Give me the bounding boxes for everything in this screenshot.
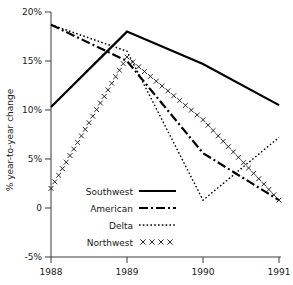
legend-label-delta: Delta [109,221,133,231]
x-tick-labels: 1988 1989 1990 1991 [40,267,291,277]
legend-swatches [139,191,176,245]
y-tick-label: 10% [22,105,42,115]
series-layer [49,25,282,203]
y-tick-label: 0 [36,203,42,213]
legend-label-american: American [90,204,133,214]
legend-label-northwest: Northwest [87,238,134,248]
x-tick-label: 1991 [268,267,291,277]
series-american [51,25,279,200]
y-tick-label: 5% [28,154,43,164]
line-chart: % year-to-year change 20% 15% 10% 5% 0 -… [0,0,293,285]
x-tick-label: 1988 [40,267,63,277]
x-tick-label: 1990 [192,267,215,277]
series-delta [51,25,279,200]
y-tick-label: 15% [22,56,42,66]
y-tick-label: -5% [24,252,42,262]
x-tick-marks [51,257,279,263]
x-tick-label: 1989 [116,267,139,277]
chart-canvas: % year-to-year change 20% 15% 10% 5% 0 -… [0,0,293,285]
series-northwest [49,55,282,203]
series-southwest [51,32,279,107]
y-tick-labels: 20% 15% 10% 5% 0 -5% [22,7,42,262]
y-axis-label: % year-to-year change [5,88,15,191]
chart-legend: Southwest American Delta Northwest [86,187,176,248]
y-tick-label: 20% [22,7,42,17]
legend-label-southwest: Southwest [86,187,134,197]
legend-sample-northwest [140,239,172,244]
y-tick-marks [45,12,51,257]
